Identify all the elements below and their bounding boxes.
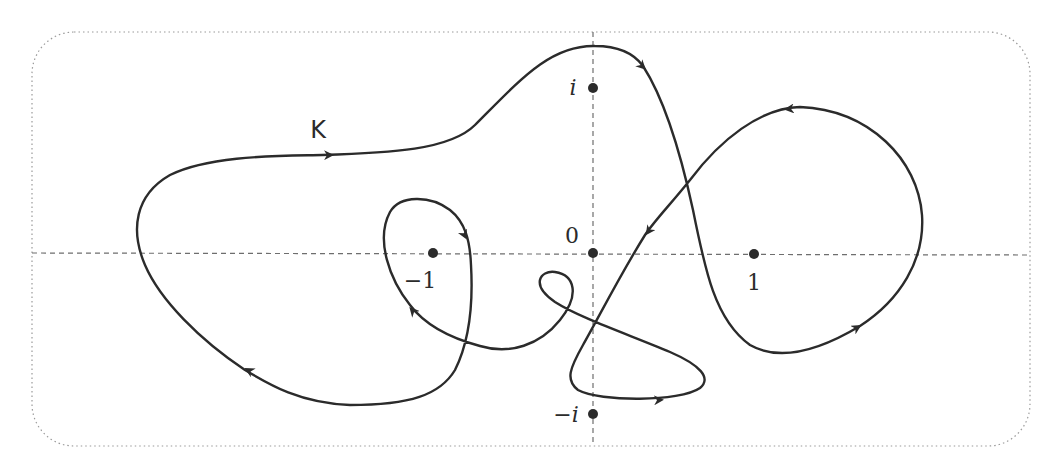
figure-border bbox=[32, 32, 1030, 446]
label-origin: 0 bbox=[565, 223, 579, 248]
contour-diagram: K 0 −1 1 i −i bbox=[0, 0, 1058, 463]
point-minus-i bbox=[588, 409, 598, 419]
point-minus-one bbox=[428, 248, 438, 258]
point-i bbox=[588, 83, 598, 93]
point-one bbox=[749, 249, 759, 259]
arrow-marker bbox=[640, 400, 660, 401]
real-axis bbox=[32, 253, 1030, 255]
label-minus-i: −i bbox=[553, 402, 578, 427]
label-i: i bbox=[569, 75, 576, 100]
label-minus-one: −1 bbox=[404, 268, 436, 293]
label-one: 1 bbox=[747, 270, 761, 295]
arrow-marker bbox=[248, 370, 268, 381]
arrow-marker bbox=[412, 310, 428, 328]
curve-label-k: K bbox=[310, 116, 327, 144]
point-origin bbox=[588, 248, 598, 258]
curve-k bbox=[137, 46, 922, 405]
